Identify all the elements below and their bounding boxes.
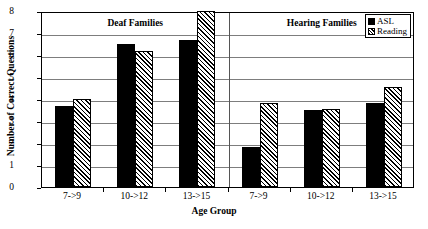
y-tick-label: 8 <box>0 7 14 17</box>
x-tick-mark <box>352 188 353 192</box>
bar-asl-0 <box>55 106 73 187</box>
x-tick-mark <box>290 188 291 192</box>
bar-reading-1 <box>135 51 153 187</box>
figure-title-clipped <box>0 0 428 7</box>
chart-figure: Number of Correct Questions 012345678 De… <box>0 0 428 229</box>
y-tick-label: 1 <box>0 161 14 171</box>
bar-reading-2 <box>197 11 215 187</box>
bar-reading-0 <box>73 99 91 187</box>
legend-label: ASL <box>377 16 394 26</box>
gridline <box>42 57 413 58</box>
gridline <box>42 101 413 102</box>
y-tick-label: 0 <box>0 183 14 193</box>
legend-item: Reading <box>368 26 407 36</box>
x-tick-mark <box>165 188 166 192</box>
group-divider <box>229 13 230 187</box>
gridline <box>42 123 413 124</box>
legend-item: ASL <box>368 16 407 26</box>
x-tick-mark <box>103 188 104 192</box>
gridline <box>42 167 413 168</box>
x-tick-label: 10->12 <box>307 191 335 201</box>
x-tick-label: 10->12 <box>120 191 148 201</box>
x-tick-label: 7->9 <box>250 191 268 201</box>
group-heading-deaf: Deaf Families <box>65 18 205 28</box>
gridline <box>42 145 413 146</box>
bar-reading-4 <box>322 109 340 187</box>
bar-asl-2 <box>179 40 197 187</box>
x-tick-label: 13->15 <box>369 191 397 201</box>
solid-black-square-icon <box>368 18 375 25</box>
x-tick-label: 13->15 <box>183 191 211 201</box>
bar-asl-4 <box>304 110 322 187</box>
y-tick-mark <box>37 188 41 189</box>
y-tick-label: 6 <box>0 51 14 61</box>
y-tick-label: 5 <box>0 73 14 83</box>
y-tick-label: 7 <box>0 29 14 39</box>
x-tick-label: 7->9 <box>63 191 81 201</box>
gridline <box>42 35 413 36</box>
hatched-square-icon <box>368 28 375 35</box>
bar-asl-1 <box>117 44 135 187</box>
y-tick-label: 4 <box>0 95 14 105</box>
plot-area: Deaf FamiliesHearing Families ASL Readin… <box>41 12 414 188</box>
y-tick-label: 3 <box>0 117 14 127</box>
bar-asl-3 <box>242 147 260 187</box>
y-tick-label: 2 <box>0 139 14 149</box>
legend: ASL Reading <box>365 14 411 38</box>
legend-label: Reading <box>377 26 407 36</box>
bar-reading-3 <box>260 103 278 187</box>
bar-asl-5 <box>366 103 384 187</box>
x-tick-mark <box>228 188 229 192</box>
bar-reading-5 <box>384 87 402 187</box>
x-axis-title: Age Group <box>0 206 428 216</box>
gridline <box>42 79 413 80</box>
